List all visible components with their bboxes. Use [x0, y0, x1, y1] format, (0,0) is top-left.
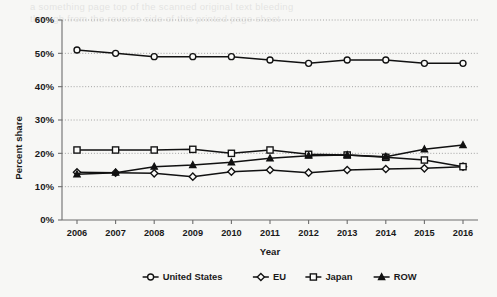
legend-marker [257, 273, 264, 280]
legend-item-eu[interactable]: EU [253, 271, 286, 282]
x-tick-label: 2010 [221, 228, 241, 238]
data-point-marker [306, 60, 312, 66]
x-tick-marks-group [77, 220, 463, 224]
legend-item-row[interactable]: ROW [374, 271, 417, 282]
x-axis-title: Year [260, 246, 281, 257]
x-tick-label: 2009 [183, 228, 203, 238]
data-point-marker [305, 169, 312, 176]
legend-marker [310, 274, 316, 280]
data-point-marker [151, 147, 157, 153]
chart-legend: United StatesEUJapanROW [143, 271, 417, 282]
x-tick-label: 2007 [105, 228, 125, 238]
data-point-marker [151, 54, 157, 60]
legend-label: EU [273, 271, 286, 282]
x-tick-label: 2015 [414, 228, 434, 238]
data-point-marker [421, 60, 427, 66]
y-tick-label: 40% [35, 81, 55, 92]
y-tick-label: 0% [40, 214, 54, 225]
data-point-marker [228, 168, 235, 175]
data-point-marker [113, 50, 119, 56]
y-tick-label: 30% [35, 114, 55, 125]
y-tick-marks-group [58, 20, 62, 220]
x-tick-label: 2012 [298, 228, 318, 238]
y-axis-title: Percent share [13, 116, 24, 179]
data-point-marker [382, 165, 389, 172]
x-tick-label: 2006 [67, 228, 87, 238]
x-tick-label: 2016 [453, 228, 473, 238]
x-tick-label: 2013 [337, 228, 357, 238]
data-point-marker [113, 147, 119, 153]
data-point-marker [74, 147, 80, 153]
x-tick-labels-group: 2006200720082009201020112012201320142015… [67, 228, 473, 238]
axes-group [62, 20, 478, 220]
series-united-states [74, 47, 466, 66]
line-chart: 0%10%20%30%40%50%60% 2006200720082009201… [0, 0, 497, 297]
data-point-marker [190, 146, 196, 152]
data-point-marker [228, 150, 234, 156]
x-tick-label: 2008 [144, 228, 164, 238]
chart-svg: 0%10%20%30%40%50%60% 2006200720082009201… [0, 0, 497, 297]
y-tick-label: 10% [35, 181, 55, 192]
legend-label: United States [163, 271, 223, 282]
y-tick-label: 50% [35, 48, 55, 59]
data-point-marker [344, 166, 351, 173]
data-point-marker [266, 166, 273, 173]
legend-label: Japan [325, 271, 352, 282]
data-point-marker [460, 141, 467, 147]
series-eu [73, 163, 466, 180]
data-point-marker [460, 60, 466, 66]
data-point-marker [190, 54, 196, 60]
data-point-marker [267, 57, 273, 63]
data-point-marker [460, 164, 466, 170]
data-point-marker [344, 57, 350, 63]
y-tick-labels-group: 0%10%20%30%40%50%60% [35, 14, 55, 225]
y-tick-label: 60% [35, 14, 55, 25]
data-series-group [73, 47, 466, 180]
data-point-marker [151, 170, 158, 177]
data-point-marker [189, 173, 196, 180]
legend-label: ROW [394, 271, 417, 282]
data-point-marker [267, 147, 273, 153]
x-tick-label: 2011 [260, 228, 280, 238]
data-point-marker [74, 47, 80, 53]
legend-item-united-states[interactable]: United States [143, 271, 223, 282]
data-point-marker [228, 54, 234, 60]
data-point-marker [421, 157, 427, 163]
legend-marker [148, 274, 154, 280]
legend-item-japan[interactable]: Japan [305, 271, 352, 282]
data-point-marker [421, 165, 428, 172]
gridlines-group [62, 20, 478, 187]
x-tick-label: 2014 [376, 228, 397, 238]
y-tick-label: 20% [35, 148, 55, 159]
data-point-marker [383, 57, 389, 63]
